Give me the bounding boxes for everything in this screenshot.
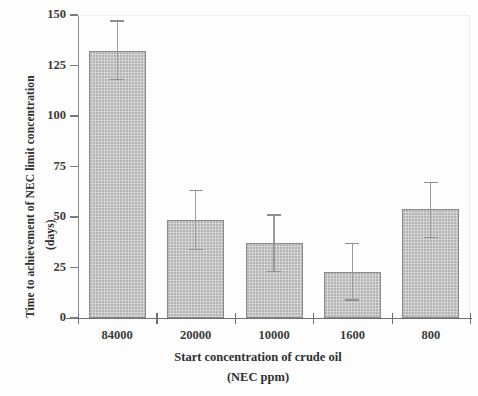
- y-tick-50: [70, 216, 78, 217]
- error-bar-cap-upper-800: [424, 182, 438, 183]
- error-bar-cap-lower-10000: [267, 271, 281, 272]
- y-axis-title-line-2: (days): [44, 219, 56, 250]
- error-bar-cap-lower-1600: [345, 299, 359, 300]
- y-tick-100: [70, 115, 78, 116]
- y-tick-label-150: 150: [28, 8, 66, 21]
- y-tick-0: [70, 317, 78, 318]
- x-tick-label-84000: 84000: [72, 328, 162, 343]
- x-tick-1: [156, 313, 157, 324]
- y-tick-label-0: 0: [28, 311, 66, 324]
- y-tick-75: [70, 166, 78, 167]
- x-tick-4: [392, 313, 393, 324]
- x-tick-0: [78, 313, 79, 324]
- y-tick-label-100: 100: [28, 109, 66, 122]
- error-bar-cap-lower-84000: [110, 79, 124, 80]
- x-axis-line: [66, 318, 472, 319]
- y-tick-label-50: 50: [28, 210, 66, 223]
- error-bar-cap-upper-20000: [189, 190, 203, 191]
- error-bar-stem-800: [430, 183, 431, 238]
- y-tick-label-125: 125: [28, 59, 66, 72]
- x-tick-label-20000: 20000: [151, 328, 241, 343]
- x-axis-title-line-2: (NEC ppm): [58, 370, 458, 385]
- y-tick-label-25: 25: [28, 261, 66, 274]
- bar-84000: [89, 51, 146, 318]
- error-bar-stem-1600: [352, 243, 353, 300]
- x-tick-2: [235, 313, 236, 324]
- error-bar-cap-lower-20000: [189, 249, 203, 250]
- y-tick-125: [70, 65, 78, 66]
- y-tick-150: [70, 14, 78, 15]
- x-tick-3: [313, 313, 314, 324]
- bar-chart-figure: Time to achievement of NEC limit concent…: [0, 0, 478, 396]
- error-bar-cap-lower-800: [424, 237, 438, 238]
- x-tick-label-800: 800: [386, 328, 476, 343]
- x-tick-label-10000: 10000: [229, 328, 319, 343]
- error-bar-stem-10000: [273, 215, 274, 272]
- y-tick-label-75: 75: [28, 160, 66, 173]
- x-tick-end: [470, 313, 471, 324]
- error-bar-stem-20000: [195, 191, 196, 250]
- error-bar-cap-upper-10000: [267, 214, 281, 215]
- error-bar-stem-84000: [117, 21, 118, 80]
- error-bar-cap-upper-84000: [110, 20, 124, 21]
- x-axis-title-line-1: Start concentration of crude oil: [58, 350, 458, 365]
- error-bar-cap-upper-1600: [345, 243, 359, 244]
- x-tick-label-1600: 1600: [307, 328, 397, 343]
- y-tick-25: [70, 267, 78, 268]
